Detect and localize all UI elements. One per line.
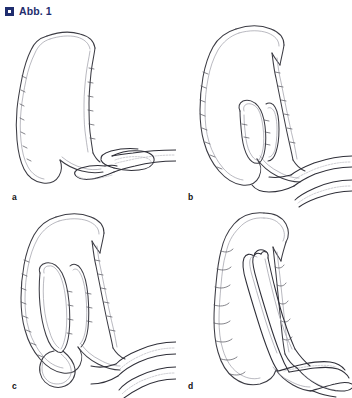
panel-label-b: b: [188, 193, 193, 202]
figure-caption-header: Abb. 1: [5, 4, 52, 18]
square-bullet-icon: [5, 7, 14, 16]
panel-label-c: c: [12, 382, 17, 391]
figure-panel-b: b: [176, 20, 352, 209]
panel-label-a: a: [12, 193, 17, 202]
panel-a-illustration: [0, 20, 176, 209]
panel-c-illustration: [0, 209, 176, 398]
figure-panel-c: c: [0, 209, 176, 398]
panel-b-illustration: [176, 20, 352, 209]
figure-panel-grid: a: [0, 20, 352, 398]
figure-panel-d: d: [176, 209, 352, 398]
figure-panel-a: a: [0, 20, 176, 209]
panel-d-illustration: [176, 209, 352, 398]
figure-label: Abb. 1: [19, 6, 52, 17]
panel-label-d: d: [188, 382, 193, 391]
